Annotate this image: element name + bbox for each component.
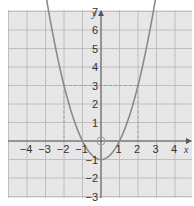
x-tick-label: −4 — [20, 143, 33, 155]
y-tick-label: 3 — [92, 80, 98, 92]
y-tick-label: −3 — [85, 191, 98, 203]
y-tick-label: 5 — [92, 43, 98, 55]
x-tick-label: 2 — [134, 143, 140, 155]
x-tick-label: 3 — [152, 143, 158, 155]
y-tick-label: 4 — [92, 61, 98, 73]
y-tick-label: −1 — [85, 154, 98, 166]
parabola-chart: −4−3−2−11234 87654321−1−2−3 x y — [0, 0, 194, 206]
x-tick-label: 1 — [115, 143, 121, 155]
x-tick-label: −2 — [57, 143, 70, 155]
x-axis-label: x — [183, 144, 189, 155]
y-tick-label: 2 — [92, 98, 98, 110]
y-axis-label: y — [91, 8, 97, 19]
y-tick-label: 6 — [92, 24, 98, 36]
x-tick-label: −3 — [38, 143, 51, 155]
x-tick-label: 4 — [171, 143, 177, 155]
y-tick-label: 1 — [92, 117, 98, 129]
y-tick-label: −2 — [85, 172, 98, 184]
